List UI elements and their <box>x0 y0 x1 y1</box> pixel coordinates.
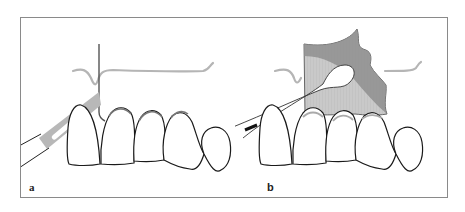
teeth-row <box>259 105 423 171</box>
tooth <box>67 105 100 166</box>
gingival-line <box>73 63 213 84</box>
panel-b-illustration <box>235 18 449 199</box>
panel-label-b: b <box>267 181 274 193</box>
teeth-row <box>67 105 231 171</box>
panel-a-illustration <box>21 18 235 199</box>
panel-a: a <box>21 18 235 197</box>
vertical-incision-line <box>99 44 105 121</box>
tooth <box>394 127 423 171</box>
tooth <box>355 113 396 170</box>
tooth <box>101 108 135 165</box>
figure-frame: a <box>20 17 448 198</box>
panel-label-a: a <box>29 181 35 193</box>
tooth <box>163 113 204 170</box>
tooth <box>259 105 292 166</box>
panel-b: b <box>235 18 449 197</box>
tooth <box>134 111 165 162</box>
tooth <box>202 127 231 171</box>
